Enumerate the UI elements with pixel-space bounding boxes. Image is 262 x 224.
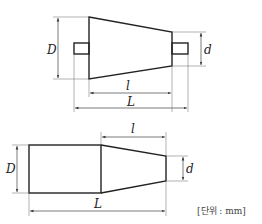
- right-shaft: [172, 43, 188, 54]
- l-label-2: l: [131, 122, 135, 136]
- taper-body: [101, 145, 166, 193]
- diagram-canvas: D d l L l D d: [0, 0, 262, 224]
- frustum-body: [89, 17, 172, 79]
- cylinder-body: [29, 145, 101, 193]
- d-label: d: [204, 43, 212, 57]
- figure-2-cylinder-taper: l D d L: [5, 122, 194, 216]
- D-label-2: D: [5, 162, 16, 176]
- figure-1-frustum: D d l L: [46, 17, 212, 112]
- D-label: D: [46, 43, 57, 57]
- left-shaft: [74, 43, 89, 54]
- d-label-2: d: [186, 162, 194, 176]
- L-label: L: [126, 95, 135, 109]
- L-label-2: L: [93, 197, 102, 211]
- l-label: l: [126, 79, 130, 93]
- unit-note: [단위 : mm]: [197, 206, 246, 216]
